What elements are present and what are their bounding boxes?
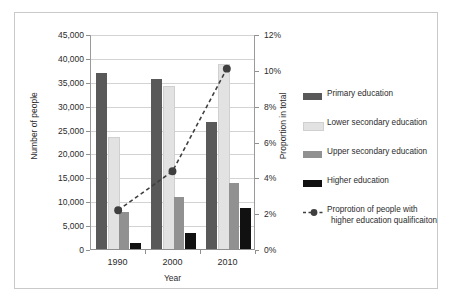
legend-item: Higher education [303,174,435,203]
y-axis-tick-label: 45,000 [38,31,84,40]
y-axis-tick-label: 0 [38,246,84,255]
y-axis-tick-label: 30,000 [38,103,84,112]
y-axis-tick-label: 20,000 [38,150,84,159]
y2-axis-tick-label: 2% [264,210,276,219]
y2-axis-tick-label: 0% [264,246,276,255]
y2-axis-tick-label: 10% [264,67,281,76]
legend-item: Upper secondary education [303,145,435,174]
trend-line [118,69,227,211]
legend-item: Proprotion of people withhigher educatio… [303,203,435,232]
legend-swatch [303,151,322,158]
y2-axis-title: Proportion in total [278,80,288,172]
y2-axis-tick-label: 12% [264,31,281,40]
y2-axis-tick-label: 4% [264,174,276,183]
y2-axis-tick-label: 8% [264,103,276,112]
y-axis-tick-label: 15,000 [38,174,84,183]
x-axis-title: Year [90,273,255,283]
line-series-layer [91,35,254,247]
y-axis-tick-label: 25,000 [38,127,84,136]
legend-swatch [303,122,324,131]
legend-label: Upper secondary education [327,147,427,158]
x-axis-tickmark [145,250,146,254]
legend-line-marker-icon [303,208,325,217]
x-axis-tickmark [200,250,201,254]
legend-swatch [303,93,322,100]
axis-baseline [91,249,254,250]
y-axis-tick-label: 5,000 [38,222,84,231]
y-axis-tick-label: 40,000 [38,55,84,64]
chart-figure: Number of people Proportion in total Yea… [14,12,438,289]
legend-label: Lower secondary education [327,118,427,129]
x-axis-tickmark [255,250,256,254]
x-axis-tick-label: 2000 [148,257,198,267]
legend-label-line2: higher education qualificaiton [327,216,437,227]
line-marker [169,167,177,175]
chart-legend: Primary educationLower secondary educati… [303,87,435,232]
x-axis-tick-label: 2010 [203,257,253,267]
y-axis-tickmark [86,250,90,251]
legend-label: Proprotion of people withhigher educatio… [327,205,437,226]
y-axis-tick-label: 35,000 [38,79,84,88]
legend-item: Lower secondary education [303,116,435,145]
line-marker [114,206,122,214]
legend-label: Primary education [327,89,393,100]
legend-label: Higher education [327,176,389,187]
plot-area [90,35,255,250]
y2-axis-tick-label: 6% [264,139,276,148]
x-axis-tick-label: 1990 [93,257,143,267]
y-axis-tick-label: 10,000 [38,198,84,207]
legend-swatch [303,180,322,187]
legend-item: Primary education [303,87,435,116]
line-marker [223,65,231,73]
